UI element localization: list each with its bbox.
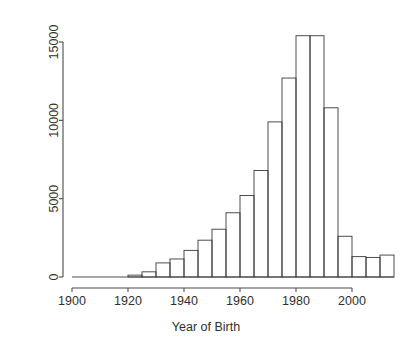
histogram-bar xyxy=(366,257,380,277)
y-axis-tick-label: 10000 xyxy=(47,103,61,138)
histogram-bar xyxy=(282,78,296,277)
histogram-bar xyxy=(226,213,240,277)
histogram-bar xyxy=(380,255,394,277)
histogram-bar xyxy=(254,170,268,277)
y-axis-tick-label: 0 xyxy=(47,273,61,280)
histogram-bar xyxy=(296,36,310,277)
x-axis-tick-label: 1940 xyxy=(170,294,198,308)
x-axis-tick-label: 1900 xyxy=(58,294,86,308)
chart-canvas: 050001000015000 190019201940196019802000… xyxy=(0,0,413,351)
histogram-bar xyxy=(310,36,324,277)
histogram-bar xyxy=(184,250,198,277)
histogram-bar xyxy=(240,196,254,277)
histogram-bar xyxy=(212,229,226,277)
histogram-bar xyxy=(338,236,352,277)
histogram-bar xyxy=(142,272,156,277)
histogram-bar xyxy=(324,108,338,277)
histogram-bars xyxy=(72,36,394,277)
histogram-bar xyxy=(198,240,212,277)
x-axis-title: Year of Birth xyxy=(172,320,240,334)
y-axis-tick-label: 15000 xyxy=(47,25,61,60)
y-axis-tick-label: 5000 xyxy=(47,185,61,213)
x-axis-tick-label: 1980 xyxy=(282,294,310,308)
histogram-plot: 050001000015000 190019201940196019802000… xyxy=(0,0,413,351)
histogram-bar xyxy=(352,257,366,277)
x-axis-tick-label: 1920 xyxy=(114,294,142,308)
histogram-bar xyxy=(170,259,184,277)
x-axis: 190019201940196019802000 xyxy=(58,288,366,308)
x-axis-tick-label: 1960 xyxy=(226,294,254,308)
y-axis: 050001000015000 xyxy=(47,25,63,281)
histogram-bar xyxy=(268,122,282,277)
x-axis-tick-label: 2000 xyxy=(338,294,366,308)
histogram-bar xyxy=(156,263,170,277)
